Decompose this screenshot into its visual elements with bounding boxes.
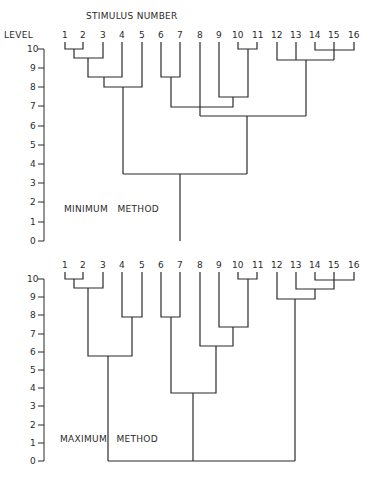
tick-label: 3 xyxy=(30,178,36,188)
leaf-label: 10 xyxy=(232,30,244,40)
tick-label: 7 xyxy=(30,101,36,111)
leaf-label: 6 xyxy=(158,30,164,40)
tick-label: 10 xyxy=(27,274,39,284)
tick-label: 2 xyxy=(30,420,36,430)
minimum-method-dendrogram: STIMULUS NUMBER LEVEL 1 2 3 4 5 6 7 8 9 … xyxy=(4,11,360,246)
leaf-label: 8 xyxy=(197,260,203,270)
level-axis-bottom: 10 9 8 7 6 5 4 3 2 1 0 xyxy=(27,274,44,466)
maximum-method-dendrogram: 1 2 3 4 5 6 7 8 9 10 11 12 13 14 15 16 xyxy=(27,260,360,466)
leaf-label: 16 xyxy=(348,30,360,40)
leaf-label: 3 xyxy=(100,30,106,40)
leaf-label: 4 xyxy=(119,260,125,270)
leaf-label: 9 xyxy=(216,260,222,270)
leaf-label: 2 xyxy=(80,30,86,40)
tick-label: 9 xyxy=(30,63,36,73)
leaf-label: 2 xyxy=(80,260,86,270)
tick-label: 5 xyxy=(30,140,36,150)
leaf-labels-top: 1 2 3 4 5 6 7 8 9 10 11 12 13 14 15 16 xyxy=(62,30,360,40)
leaf-label: 14 xyxy=(309,30,321,40)
leaf-label: 7 xyxy=(177,30,183,40)
leaf-label: 11 xyxy=(252,260,263,270)
leaf-label: 6 xyxy=(158,260,164,270)
tick-label: 8 xyxy=(30,310,36,320)
leaf-label: 14 xyxy=(309,260,321,270)
tick-label: 10 xyxy=(27,44,39,54)
leaf-label: 16 xyxy=(348,260,360,270)
tick-label: 6 xyxy=(30,347,36,357)
dendrogram-figure: STIMULUS NUMBER LEVEL 1 2 3 4 5 6 7 8 9 … xyxy=(0,0,370,485)
leaf-label: 15 xyxy=(328,30,339,40)
tick-label: 1 xyxy=(30,217,36,227)
leaf-label: 5 xyxy=(139,30,145,40)
tick-label: 0 xyxy=(30,456,36,466)
level-axis-label: LEVEL xyxy=(4,30,33,40)
leaf-label: 11 xyxy=(252,30,263,40)
leaf-label: 3 xyxy=(100,260,106,270)
leaf-label: 12 xyxy=(271,30,282,40)
leaf-label: 12 xyxy=(271,260,282,270)
minimum-method-label: MINIMUM METHOD xyxy=(64,204,159,214)
tick-label: 3 xyxy=(30,401,36,411)
leaf-label: 1 xyxy=(62,30,68,40)
leaf-label: 7 xyxy=(177,260,183,270)
leaf-label: 13 xyxy=(290,260,301,270)
tick-label: 8 xyxy=(30,82,36,92)
maximum-tree-branches xyxy=(65,272,354,461)
leaf-label: 1 xyxy=(62,260,68,270)
leaf-label: 8 xyxy=(197,30,203,40)
tick-label: 6 xyxy=(30,121,36,131)
tick-label: 5 xyxy=(30,365,36,375)
tick-label: 9 xyxy=(30,292,36,302)
tick-label: 4 xyxy=(30,159,36,169)
tick-label: 0 xyxy=(30,236,36,246)
leaf-label: 13 xyxy=(290,30,301,40)
maximum-method-label: MAXIMUM METHOD xyxy=(60,434,158,444)
tick-label: 1 xyxy=(30,438,36,448)
leaf-label: 5 xyxy=(139,260,145,270)
leaf-labels-bottom: 1 2 3 4 5 6 7 8 9 10 11 12 13 14 15 16 xyxy=(62,260,360,270)
leaf-label: 9 xyxy=(216,30,222,40)
leaf-label: 10 xyxy=(232,260,244,270)
tick-label: 2 xyxy=(30,197,36,207)
leaf-label: 15 xyxy=(328,260,339,270)
tick-label: 7 xyxy=(30,329,36,339)
level-axis-top: 10 9 8 7 6 5 4 3 2 1 0 xyxy=(27,44,44,246)
tick-label: 4 xyxy=(30,383,36,393)
stimulus-number-title: STIMULUS NUMBER xyxy=(86,11,178,21)
leaf-label: 4 xyxy=(119,30,125,40)
